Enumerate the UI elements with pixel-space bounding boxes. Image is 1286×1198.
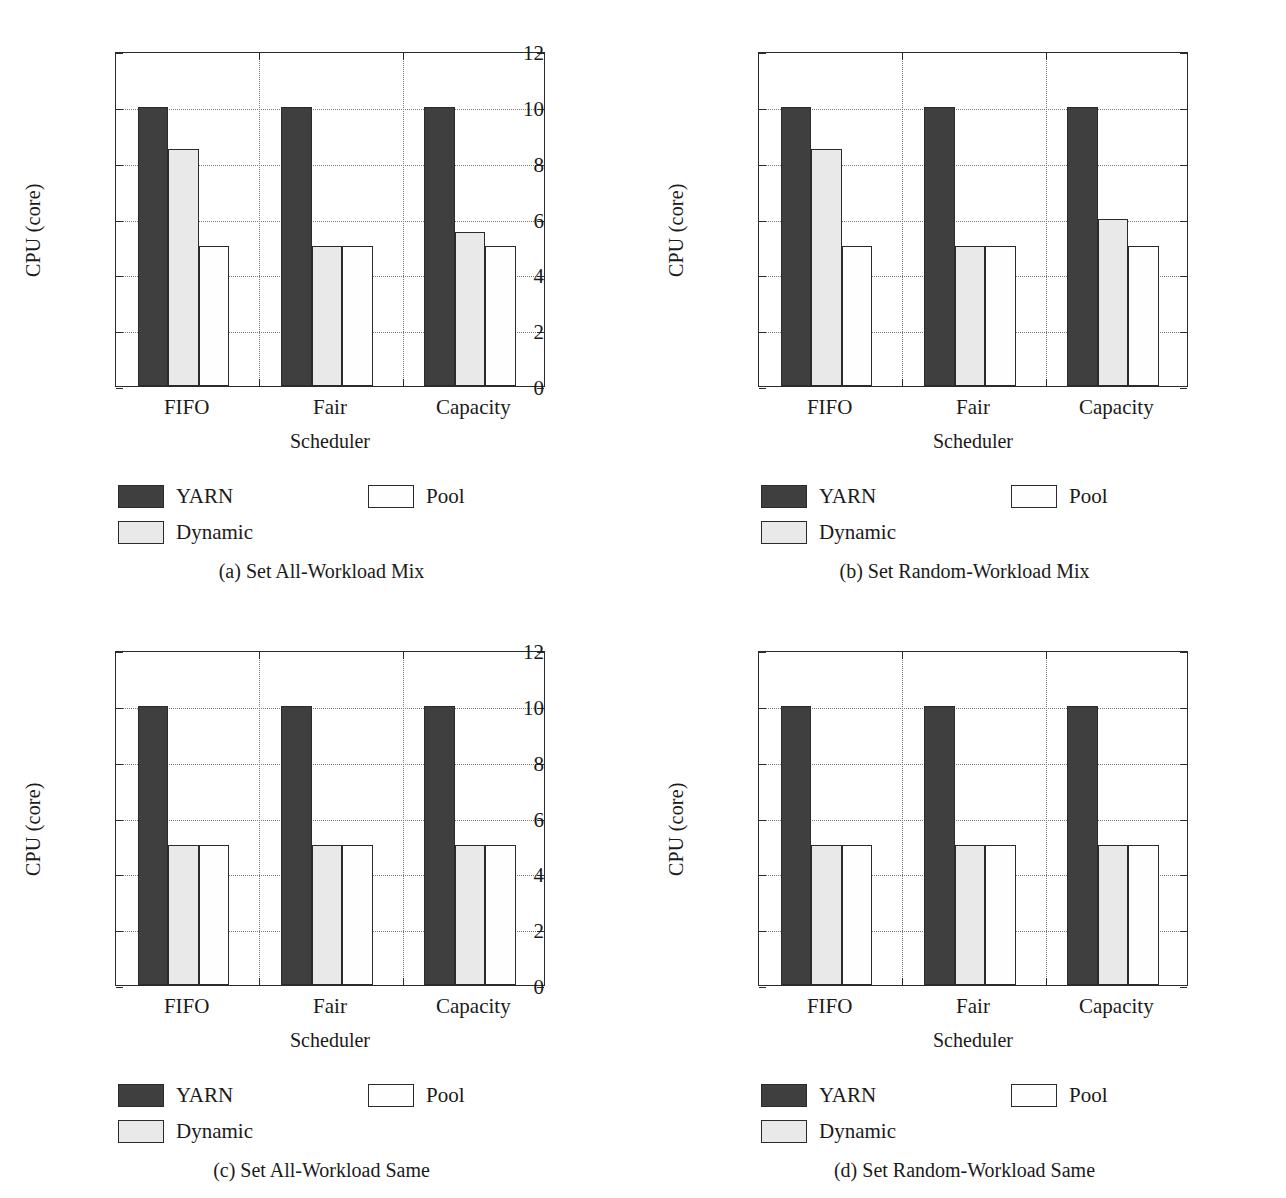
panel-c: CPU (core)024681012FIFOFairCapacitySched… <box>0 599 643 1198</box>
bars-layer <box>759 53 1187 386</box>
x-axis-label: Scheduler <box>115 430 545 453</box>
panel-grid: CPU (core)024681012FIFOFairCapacitySched… <box>0 0 1286 1198</box>
y-axis-label: CPU (core) <box>665 739 687 919</box>
legend-label: Pool <box>426 1085 465 1106</box>
bar-c-fair-pool <box>342 845 373 985</box>
legend-label: Dynamic <box>176 522 253 543</box>
x-tick-label: Capacity <box>1036 994 1196 1019</box>
x-axis-label: Scheduler <box>115 1029 545 1052</box>
x-tick-label: FIFO <box>107 395 267 420</box>
y-tick-label: 6 <box>504 208 544 233</box>
legend-swatch-dynamic-icon <box>761 521 807 544</box>
panel-d: CPU (core)024681012FIFOFairCapacitySched… <box>643 599 1286 1198</box>
bar-d-capacity-pool <box>1128 845 1159 985</box>
panel-a: CPU (core)024681012FIFOFairCapacitySched… <box>0 0 643 599</box>
legend-item-dynamic[interactable]: Dynamic <box>761 521 896 544</box>
legend-swatch-pool-icon <box>368 485 414 508</box>
legend-b: YARNPoolDynamic <box>761 485 1191 547</box>
legend-item-pool[interactable]: Pool <box>368 1084 465 1107</box>
axes-frame: 024681012 <box>115 52 545 387</box>
bar-a-fifo-pool <box>199 246 230 386</box>
panel-b: CPU (core)024681012FIFOFairCapacitySched… <box>643 0 1286 599</box>
y-tick-label: 4 <box>504 264 544 289</box>
legend-swatch-yarn-icon <box>118 1084 164 1107</box>
x-tick-label: Fair <box>250 395 410 420</box>
y-tick-label: 0 <box>504 376 544 401</box>
legend-label: Pool <box>426 486 465 507</box>
bar-a-fair-yarn <box>281 107 312 386</box>
y-tick-label: 12 <box>504 640 544 665</box>
y-tick-label: 10 <box>504 96 544 121</box>
legend-item-pool[interactable]: Pool <box>1011 1084 1108 1107</box>
y-axis-label: CPU (core) <box>22 140 44 320</box>
legend-label: YARN <box>819 486 876 507</box>
legend-item-yarn[interactable]: YARN <box>761 485 876 508</box>
y-tick-label: 12 <box>504 41 544 66</box>
bar-d-fair-dynamic <box>955 845 986 985</box>
legend-item-pool[interactable]: Pool <box>1011 485 1108 508</box>
bar-b-fifo-dynamic <box>811 149 842 386</box>
legend-item-dynamic[interactable]: Dynamic <box>118 521 253 544</box>
x-tick-label: Fair <box>250 994 410 1019</box>
legend-item-yarn[interactable]: YARN <box>118 485 233 508</box>
plot-area-a: CPU (core)024681012FIFOFairCapacitySched… <box>0 0 643 420</box>
legend-label: Dynamic <box>819 1121 896 1142</box>
bar-b-fair-pool <box>985 246 1016 386</box>
y-axis-tick <box>759 987 766 988</box>
legend-label: Pool <box>1069 1085 1108 1106</box>
y-tick-label: 0 <box>504 975 544 1000</box>
legend-swatch-pool-icon <box>1011 1084 1057 1107</box>
bar-c-fifo-dynamic <box>168 845 199 985</box>
y-axis-label: CPU (core) <box>665 140 687 320</box>
x-tick-label: FIFO <box>750 395 910 420</box>
bar-a-fifo-yarn <box>138 107 169 386</box>
x-tick-label: FIFO <box>750 994 910 1019</box>
bar-a-capacity-dynamic <box>455 232 486 386</box>
legend-item-dynamic[interactable]: Dynamic <box>761 1120 896 1143</box>
y-tick-label: 2 <box>504 320 544 345</box>
panel-caption-d: (d) Set Random-Workload Same <box>643 1159 1286 1182</box>
axes-frame: 024681012 <box>115 651 545 986</box>
x-axis-label: Scheduler <box>758 1029 1188 1052</box>
legend-swatch-dynamic-icon <box>118 1120 164 1143</box>
bar-c-fair-yarn <box>281 706 312 985</box>
bars-layer <box>116 652 544 985</box>
legend-swatch-yarn-icon <box>761 485 807 508</box>
legend-item-pool[interactable]: Pool <box>368 485 465 508</box>
figure-cpu-core-by-scheduler: CPU (core)024681012FIFOFairCapacitySched… <box>0 0 1286 1198</box>
legend-swatch-yarn-icon <box>761 1084 807 1107</box>
legend-a: YARNPoolDynamic <box>118 485 548 547</box>
bar-a-fair-pool <box>342 246 373 386</box>
bars-layer <box>759 652 1187 985</box>
y-tick-label: 2 <box>504 919 544 944</box>
y-tick-label: 8 <box>504 152 544 177</box>
bar-d-fifo-dynamic <box>811 845 842 985</box>
bar-b-fifo-pool <box>842 246 873 386</box>
bar-c-fifo-pool <box>199 845 230 985</box>
y-tick-label: 10 <box>504 695 544 720</box>
x-tick-label: Capacity <box>1036 395 1196 420</box>
y-axis-tick <box>1180 388 1187 389</box>
bar-c-fair-dynamic <box>312 845 343 985</box>
legend-item-yarn[interactable]: YARN <box>761 1084 876 1107</box>
x-tick-label: Fair <box>893 994 1053 1019</box>
y-tick-label: 6 <box>504 807 544 832</box>
legend-label: Dynamic <box>176 1121 253 1142</box>
axes-frame: 024681012 <box>758 52 1188 387</box>
bar-c-capacity-yarn <box>424 706 455 985</box>
bar-a-fifo-dynamic <box>168 149 199 386</box>
legend-item-yarn[interactable]: YARN <box>118 1084 233 1107</box>
legend-label: Pool <box>1069 486 1108 507</box>
plot-area-c: CPU (core)024681012FIFOFairCapacitySched… <box>0 599 643 1019</box>
y-axis-tick <box>1180 987 1187 988</box>
bar-b-capacity-dynamic <box>1098 219 1129 387</box>
plot-area-b: CPU (core)024681012FIFOFairCapacitySched… <box>643 0 1286 420</box>
legend-item-dynamic[interactable]: Dynamic <box>118 1120 253 1143</box>
legend-label: Dynamic <box>819 522 896 543</box>
x-axis-label: Scheduler <box>758 430 1188 453</box>
bar-b-capacity-yarn <box>1067 107 1098 386</box>
legend-swatch-dynamic-icon <box>118 521 164 544</box>
plot-area-d: CPU (core)024681012FIFOFairCapacitySched… <box>643 599 1286 1019</box>
y-tick-label: 8 <box>504 751 544 776</box>
bar-d-fair-yarn <box>924 706 955 985</box>
